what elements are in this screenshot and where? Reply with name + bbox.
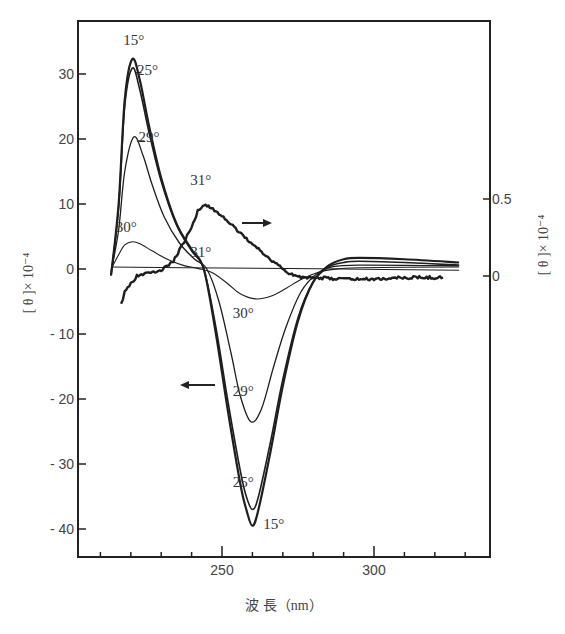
y-tick-label: 10 [58,196,74,212]
y-tick-label: - 10 [50,326,74,342]
curve-label: 31° [190,172,211,188]
curve-label: 30° [233,305,254,321]
y-right-tick-label: 0.5 [492,191,512,207]
y-tick-label: - 30 [50,456,74,472]
curve-label: 30° [116,219,137,235]
cd-spectrum-chart: 250300 3020100- 10- 20- 30- 40 0.50 15°2… [0,0,565,634]
y-right-tick-label: 0 [492,268,500,284]
x-axis-ticks: 250300 [100,546,465,578]
x-tick-label: 250 [210,562,234,578]
y-axis-left-title: [ θ ]× 10⁻⁴ [21,253,36,314]
series-line-15deg-left [111,59,459,526]
curve-label: 29° [233,383,254,399]
y-axis-left-ticks: 3020100- 10- 20- 30- 40 [50,66,86,537]
curve-label: 15° [123,32,144,48]
y-tick-label: - 20 [50,391,74,407]
y-axis-right-title: [ θ ]× 10⁻⁴ [536,215,551,276]
y-tick-label: 30 [58,66,74,82]
axis-arrow-right [242,219,272,227]
curve-label: 29° [139,129,160,145]
y-axis-right-ticks: 0.50 [483,191,512,284]
curve-annotations: 15°25°29°30°31°31°30°29°25°15° [116,32,284,532]
series-line-31deg-right [121,205,443,304]
y-tick-label: 20 [58,131,74,147]
curve-label: 25° [233,474,254,490]
x-axis-title: 波 長（nm） [245,598,322,613]
x-tick-label: 300 [362,562,386,578]
axis-arrow-left [180,381,215,389]
curve-label: 25° [137,62,158,78]
y-tick-label: - 40 [50,521,74,537]
data-series [111,59,459,526]
y-tick-label: 0 [66,261,74,277]
curve-label: 31° [190,244,211,260]
curve-label: 15° [263,516,284,532]
